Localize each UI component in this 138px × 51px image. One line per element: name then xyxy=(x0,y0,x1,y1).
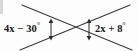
left-degree-symbol: ° xyxy=(37,21,40,30)
right-angle-expression: 2x + 8 xyxy=(95,23,123,34)
left-angle-arrow xyxy=(49,19,54,41)
left-angle-label: 4x − 30° xyxy=(4,24,40,35)
geometry-figure: 4x − 30° 2x + 8° xyxy=(0,0,138,51)
right-angle-arrow xyxy=(87,19,92,41)
right-degree-symbol: ° xyxy=(123,21,126,30)
right-angle-label: 2x + 8° xyxy=(95,24,126,35)
left-angle-expression: 4x − 30 xyxy=(4,23,37,34)
